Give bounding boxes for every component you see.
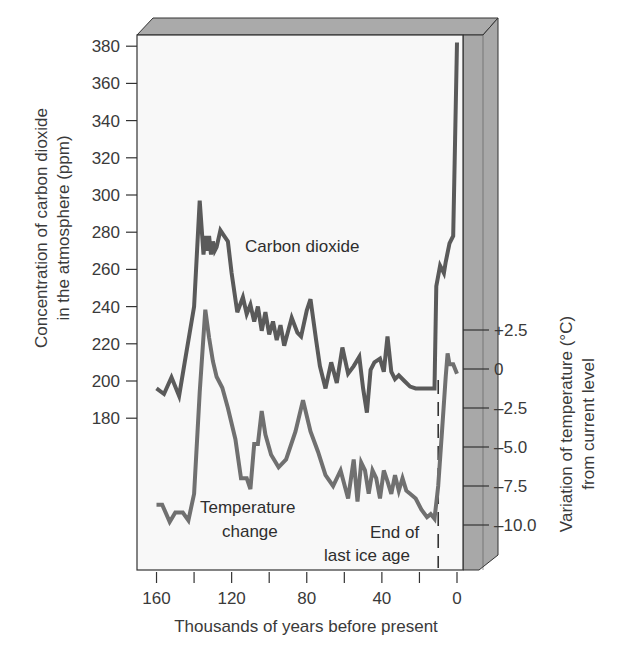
co2-temperature-chart: 180200220240260280300320340360380 +2.50–… [0,0,617,652]
y-left-tick-label: 380 [92,37,120,56]
y-right-tick-label: –10.0 [494,516,537,535]
y-right-tick-label: +2.5 [494,321,528,340]
temperature-series-label-line1: Temperature [200,498,295,517]
plot-area [137,35,463,570]
x-axis-title: Thousands of years before present [174,617,438,636]
temperature-series-label-line2: change [222,522,278,541]
y-left-tick-label: 180 [92,409,120,428]
y-left-tick-label: 340 [92,112,120,131]
y-left-tick-label: 220 [92,335,120,354]
ice-age-label-line2: last ice age [324,546,410,565]
y-left-tick-label: 240 [92,298,120,317]
x-tick-label: 0 [452,589,461,608]
y-right-tick-label: –2.5 [494,399,527,418]
y-axis-left-title-line1: Concentration of carbon dioxide [32,108,51,348]
x-tick-label: 160 [142,589,170,608]
y-left-tick-label: 200 [92,372,120,391]
y-axis-left-ticks: 180200220240260280300320340360380 [92,37,137,428]
plot-top-bevel [137,18,498,35]
ice-age-label-line1: End of [370,523,419,542]
y-left-tick-label: 260 [92,260,120,279]
x-tick-label: 80 [297,589,316,608]
y-axis-left-title-line2: in the atmosphere (ppm) [54,135,73,320]
x-tick-label: 120 [217,589,245,608]
y-right-tick-label: –7.5 [494,477,527,496]
y-axis-right-title-line1: Variation of temperature (°C) [557,316,576,532]
y-left-tick-label: 360 [92,74,120,93]
x-axis-ticks: 16012080400 [142,572,461,608]
x-tick-label: 40 [372,589,391,608]
co2-series-label: Carbon dioxide [245,237,359,256]
y-axis-right-title-line2: from current level [579,358,598,489]
plot-right-side [463,18,498,570]
y-right-tick-label: –5.0 [494,438,527,457]
y-right-tick-label: 0 [494,360,503,379]
y-left-tick-label: 300 [92,186,120,205]
y-left-tick-label: 320 [92,149,120,168]
y-left-tick-label: 280 [92,223,120,242]
